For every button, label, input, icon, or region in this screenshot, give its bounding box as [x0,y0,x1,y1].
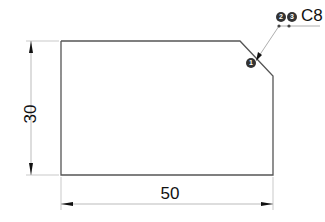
badge-1: 1 [246,58,256,68]
leader-dot [287,24,290,27]
leader-line [259,26,279,56]
arrow-right-icon [261,202,273,206]
badge-2: 2 [276,12,286,22]
dimension-height-label: 30 [21,97,41,131]
badge-3: 3 [287,12,297,22]
arrow-down-icon [29,163,33,175]
chamfer-callout-label: C8 [301,6,323,26]
arrow-up-icon [29,41,33,53]
leader-dot [277,24,280,27]
part-outline [61,41,273,175]
dimension-width-label: 50 [150,184,190,204]
arrow-left-icon [61,202,73,206]
